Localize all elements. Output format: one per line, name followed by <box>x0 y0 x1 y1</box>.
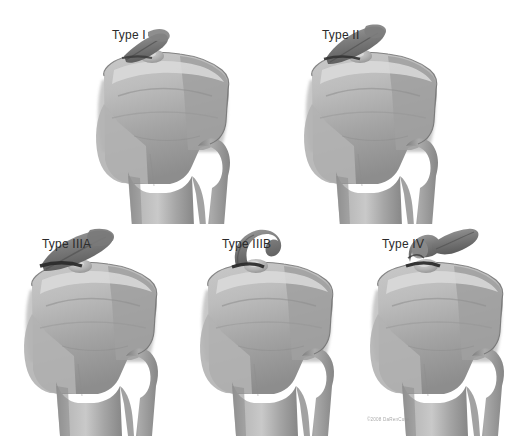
panel-type-4: Type IV ©2008 DaRenCure <box>356 224 522 447</box>
bone-illustration-type-4 <box>356 224 522 447</box>
fracture-classification-figure: Type I Type II <box>0 0 522 447</box>
bone-illustration-type-3b <box>178 224 356 447</box>
bone-illustration-type-3a <box>0 224 178 447</box>
panel-label-type-1: Type I <box>112 29 146 41</box>
panel-type-2: Type II <box>261 0 522 224</box>
bone-illustration-type-2 <box>261 0 522 224</box>
panel-label-type-3b: Type IIIB <box>222 238 271 250</box>
panel-label-type-4: Type IV <box>382 238 424 250</box>
panel-type-3b: Type IIIB <box>178 224 356 447</box>
panel-type-3a: Type IIIA <box>0 224 178 447</box>
panel-label-type-2: Type II <box>322 29 359 41</box>
panel-label-type-3a: Type IIIA <box>42 238 91 250</box>
copyright-watermark: ©2008 DaRenCure <box>367 416 409 422</box>
panel-type-1: Type I <box>0 0 261 224</box>
